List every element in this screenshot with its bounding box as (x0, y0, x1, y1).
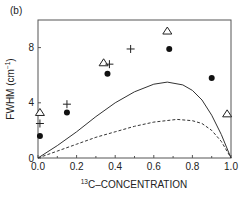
x-tick-label: 0.8 (185, 161, 199, 172)
x-tick-label: 0.6 (147, 161, 161, 172)
plot-frame (38, 20, 231, 158)
triangle-marker (163, 27, 172, 34)
triangle-marker (223, 110, 232, 117)
circle-marker (209, 75, 215, 81)
plus-marker (36, 120, 44, 128)
fwhm-chart: (b) 0.00.20.40.60.81.0 048 13C–CONCENTRA… (0, 0, 245, 199)
panel-label: (b) (10, 5, 22, 16)
y-tick-label: 8 (28, 42, 34, 53)
plus-marker (105, 60, 113, 68)
y-tick-label: 0 (28, 153, 34, 164)
y-tick-label: 4 (28, 97, 34, 108)
x-tick-label: 0.2 (70, 161, 84, 172)
x-tick-label: 0.4 (108, 161, 122, 172)
circle-marker (64, 109, 70, 115)
circle-marker (37, 133, 43, 139)
curves (38, 82, 231, 158)
circle-marker (166, 46, 172, 52)
plus-marker (127, 45, 135, 53)
circle-marker (104, 71, 110, 77)
triangle-marker (35, 108, 44, 115)
triangle-marker (99, 59, 108, 66)
x-axis-label: 13C–CONCENTRATION (81, 178, 188, 190)
solid-curve (38, 82, 231, 158)
data-markers (35, 27, 231, 139)
plus-marker (63, 100, 71, 108)
y-axis-label: FWHM (cm−1) (4, 58, 16, 119)
x-tick-label: 1.0 (224, 161, 238, 172)
y-axis-ticks: 048 (28, 42, 41, 163)
